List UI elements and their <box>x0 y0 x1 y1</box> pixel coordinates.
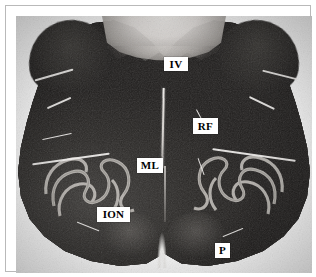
midline-raphe-lower <box>164 166 166 222</box>
label-ml: ML <box>137 158 163 173</box>
photomicrograph-plate: IV RF ML ION P <box>16 16 312 273</box>
label-p: P <box>215 243 230 258</box>
label-ion: ION <box>97 207 130 222</box>
figure-page: IV RF ML ION P <box>0 0 316 277</box>
label-rf: RF <box>193 118 218 134</box>
label-iv: IV <box>164 57 188 71</box>
medulla-section-image <box>16 16 312 273</box>
figure-frame: IV RF ML ION P <box>5 5 311 272</box>
